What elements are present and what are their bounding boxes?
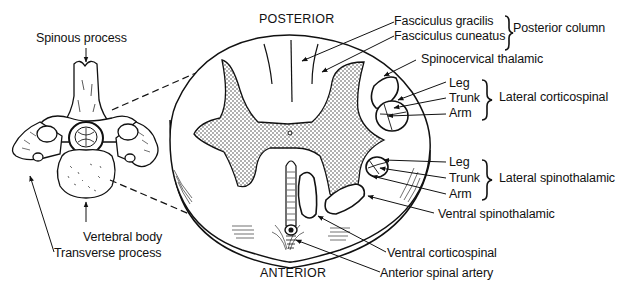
lateral-spinothalamic-leg-label: Leg bbox=[449, 155, 470, 169]
anterior-label: ANTERIOR bbox=[260, 266, 326, 280]
spinous-process-label: Spinous process bbox=[36, 31, 127, 45]
anterior-spinal-artery-label: Anterior spinal artery bbox=[380, 266, 493, 280]
ventral-corticospinal-label: Ventral corticospinal bbox=[387, 246, 497, 260]
vertebral-body-label: Vertebral body bbox=[83, 230, 162, 244]
vertebral-body-shape bbox=[57, 150, 115, 198]
lateral-corticospinal-label: Lateral corticospinal bbox=[499, 90, 608, 104]
lateral-corticospinal-arm-label: Arm bbox=[449, 106, 472, 120]
lateral-spinothalamic-arm-label: Arm bbox=[449, 187, 472, 201]
lateral-spinothalamic-trunk-label: Trunk bbox=[449, 171, 480, 185]
spinal-cord-cross-section-diagram: POSTERIOR ANTERIOR Spinous process Verte… bbox=[0, 0, 619, 289]
lateral-spinothalamic-label: Lateral spinothalamic bbox=[499, 171, 615, 185]
vertebra-illustration bbox=[12, 61, 158, 198]
posterior-column-label: Posterior column bbox=[513, 21, 605, 35]
transverse-process-label: Transverse process bbox=[54, 246, 162, 260]
lateral-corticospinal-trunk-label: Trunk bbox=[449, 91, 480, 105]
ventral-spinothalamic-label: Ventral spinothalamic bbox=[438, 207, 555, 221]
spinous-process-shape bbox=[62, 61, 112, 126]
fasciculus-cuneatus-label: Fasciculus cuneatus bbox=[394, 29, 505, 43]
fasciculus-gracilis-label: Fasciculus gracilis bbox=[394, 14, 494, 28]
lateral-corticospinal-leg-label: Leg bbox=[449, 76, 470, 90]
spinal-cord-section bbox=[170, 35, 430, 268]
spinocervical-thalamic-label: Spinocervical thalamic bbox=[421, 52, 543, 66]
posterior-label: POSTERIOR bbox=[259, 12, 334, 26]
